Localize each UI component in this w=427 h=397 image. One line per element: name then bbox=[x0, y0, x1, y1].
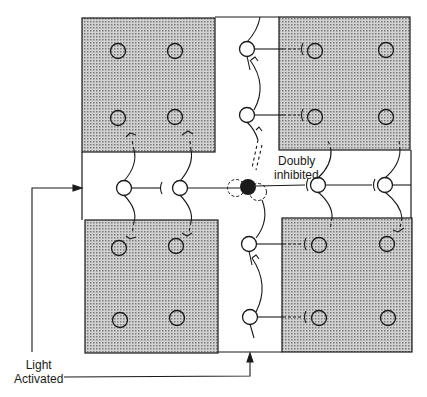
doubly-inhibited-cell bbox=[228, 179, 267, 201]
doubly-inhibited-label: Doubly inhibited bbox=[274, 154, 319, 182]
shaded-block-top-left bbox=[82, 18, 215, 152]
retina-inhibition-diagram bbox=[0, 0, 427, 397]
light-activated-label: Light Activated bbox=[14, 358, 63, 386]
doubly-label: Doubly bbox=[274, 154, 319, 168]
activated-label: Activated bbox=[14, 372, 63, 386]
shaded-block-top-right bbox=[279, 17, 410, 150]
inhibited-label: inhibited bbox=[274, 168, 319, 182]
shaded-block-bottom-left bbox=[85, 220, 218, 353]
light-label: Light bbox=[14, 358, 63, 372]
